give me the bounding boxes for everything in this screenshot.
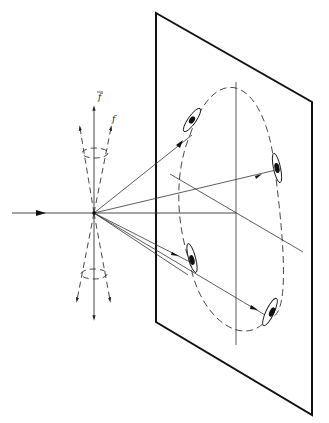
- label-upper-f: f: [97, 92, 103, 102]
- spot-bottom: [260, 297, 280, 328]
- incident-beam: [12, 210, 236, 216]
- screen-plane: [156, 13, 312, 415]
- ray-arrowheads: [171, 140, 262, 310]
- rays: [94, 135, 276, 318]
- label-side-f: f: [111, 114, 117, 124]
- spot-right: [270, 153, 283, 184]
- diagram-canvas: f f: [0, 0, 329, 423]
- focus-point: [92, 211, 96, 215]
